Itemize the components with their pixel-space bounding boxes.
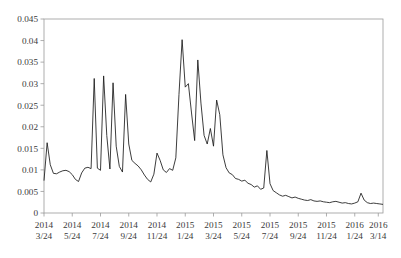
y-tick-label: 0.02 bbox=[22, 122, 38, 132]
y-tick-label: 0.04 bbox=[22, 36, 38, 46]
x-tick-label-year: 2015 bbox=[204, 220, 223, 230]
x-axis-ticks: 20143/2420145/2420147/2420149/24201411/2… bbox=[35, 213, 388, 241]
x-tick-label-date: 11/24 bbox=[147, 231, 168, 241]
series-1-line bbox=[44, 40, 383, 205]
x-tick-label-year: 2014 bbox=[148, 220, 167, 230]
x-tick-label-year: 2014 bbox=[91, 220, 110, 230]
line-chart: 00.0050.010.0150.020.0250.030.0350.040.0… bbox=[0, 0, 401, 258]
plot-border-group bbox=[44, 19, 383, 213]
x-tick-label-year: 2015 bbox=[317, 220, 336, 230]
x-tick-label-year: 2014 bbox=[63, 220, 82, 230]
y-tick-label: 0.01 bbox=[22, 165, 38, 175]
x-tick-label-date: 5/24 bbox=[64, 231, 81, 241]
x-tick-label-year: 2015 bbox=[176, 220, 195, 230]
y-tick-label: 0.015 bbox=[17, 144, 38, 154]
x-tick-label-date: 7/24 bbox=[262, 231, 279, 241]
x-tick-label-year: 2016 bbox=[369, 220, 388, 230]
x-tick-label-year: 2015 bbox=[261, 220, 280, 230]
data-series-group bbox=[44, 40, 383, 205]
y-axis-ticks: 00.0050.010.0150.020.0250.030.0350.040.0… bbox=[17, 14, 44, 218]
x-tick-label-date: 11/24 bbox=[316, 231, 337, 241]
x-tick-label-year: 2015 bbox=[233, 220, 252, 230]
x-tick-label-year: 2015 bbox=[289, 220, 308, 230]
x-tick-label-year: 2014 bbox=[35, 220, 54, 230]
y-tick-label: 0 bbox=[33, 208, 38, 218]
y-tick-label: 0.03 bbox=[22, 79, 38, 89]
x-tick-label-date: 9/24 bbox=[290, 231, 307, 241]
x-tick-label-date: 1/24 bbox=[347, 231, 364, 241]
y-tick-label: 0.005 bbox=[17, 187, 38, 197]
x-tick-label-date: 7/24 bbox=[92, 231, 109, 241]
x-tick-label-date: 3/24 bbox=[205, 231, 222, 241]
x-tick-label-date: 3/14 bbox=[370, 231, 387, 241]
x-tick-label-date: 9/24 bbox=[121, 231, 138, 241]
chart-container: 00.0050.010.0150.020.0250.030.0350.040.0… bbox=[0, 0, 401, 258]
y-tick-label: 0.045 bbox=[17, 14, 38, 24]
x-tick-label-date: 1/24 bbox=[177, 231, 194, 241]
x-tick-label-year: 2016 bbox=[346, 220, 365, 230]
plot-area-border bbox=[44, 19, 383, 213]
x-tick-label-year: 2014 bbox=[120, 220, 139, 230]
x-tick-label-date: 5/24 bbox=[234, 231, 251, 241]
y-tick-label: 0.025 bbox=[17, 101, 38, 111]
y-tick-label: 0.035 bbox=[17, 57, 38, 67]
x-tick-label-date: 3/24 bbox=[36, 231, 53, 241]
